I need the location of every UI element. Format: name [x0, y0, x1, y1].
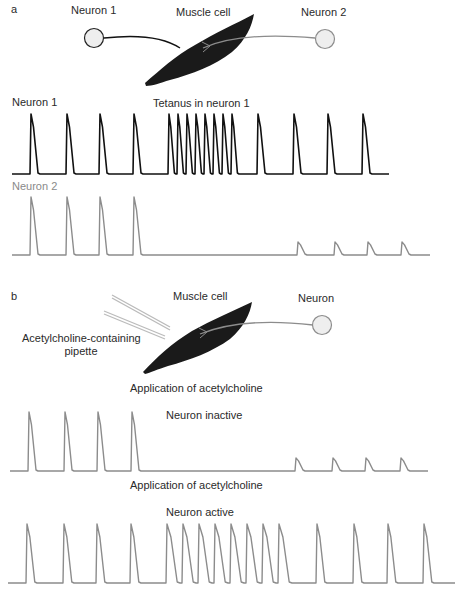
membrane-potential-traces — [0, 0, 459, 600]
trace-neuron-inactive — [10, 412, 428, 471]
trace-neuron-2 — [12, 197, 430, 255]
trace-neuron-active — [8, 524, 455, 583]
trace-neuron-1 — [12, 114, 389, 174]
